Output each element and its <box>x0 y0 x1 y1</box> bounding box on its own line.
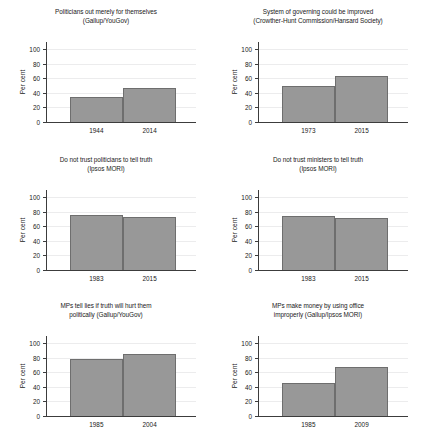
x-tick-label: 2009 <box>355 421 369 428</box>
y-tick-label: 60 <box>245 369 252 376</box>
y-tick-label: 60 <box>245 75 252 82</box>
y-tick-label: 100 <box>241 340 252 347</box>
bar <box>282 216 335 270</box>
y-tick-label: 60 <box>33 75 40 82</box>
y-tick-label: 40 <box>245 89 252 96</box>
y-axis-label: Per cent <box>231 364 238 389</box>
plot-area: Per cent02040608010019832015 <box>212 148 424 294</box>
y-tick-label: 20 <box>245 104 252 111</box>
y-tick-label: 100 <box>29 340 40 347</box>
y-tick-label: 20 <box>33 252 40 259</box>
plot-area: Per cent02040608010019852009 <box>212 294 424 444</box>
y-tick-label: 80 <box>245 208 252 215</box>
y-tick-label: 40 <box>33 89 40 96</box>
y-tick-label: 0 <box>248 119 252 126</box>
x-tick-label: 1985 <box>89 421 103 428</box>
multi-panel-bar-chart-figure: Politicians out merely for themselves (G… <box>0 0 424 444</box>
x-tick-label: 2015 <box>143 275 157 282</box>
y-tick-label: 0 <box>248 267 252 274</box>
y-tick-label: 60 <box>245 223 252 230</box>
y-tick-label: 0 <box>248 413 252 420</box>
gridline <box>258 358 408 359</box>
y-tick-label: 40 <box>33 237 40 244</box>
bar <box>335 76 388 122</box>
x-tick-label: 2015 <box>355 127 369 134</box>
x-tick-label: 1983 <box>89 275 103 282</box>
y-axis-line <box>258 42 259 123</box>
y-tick-label: 40 <box>245 237 252 244</box>
y-tick-label: 0 <box>36 413 40 420</box>
gridline <box>258 64 408 65</box>
y-axis-label: Per cent <box>19 70 26 95</box>
y-tick-label: 20 <box>245 252 252 259</box>
y-tick-label: 80 <box>245 354 252 361</box>
y-axis-line <box>46 42 47 123</box>
chart-panel: Do not trust politicians to tell truth (… <box>0 148 212 294</box>
gridline <box>46 78 196 79</box>
y-tick-label: 60 <box>33 369 40 376</box>
y-tick-label: 20 <box>33 104 40 111</box>
gridline <box>46 343 196 344</box>
y-tick-label: 60 <box>33 223 40 230</box>
y-axis-label: Per cent <box>231 218 238 243</box>
bar <box>123 88 176 122</box>
y-tick-label: 100 <box>29 46 40 53</box>
bar <box>282 383 335 416</box>
x-tick-label: 2015 <box>355 275 369 282</box>
y-tick-label: 40 <box>33 383 40 390</box>
y-tick-label: 80 <box>33 208 40 215</box>
y-tick-label: 0 <box>36 119 40 126</box>
chart-panel: Politicians out merely for themselves (G… <box>0 0 212 148</box>
y-axis-line <box>258 336 259 417</box>
bar <box>123 217 176 270</box>
x-axis-line <box>43 122 196 123</box>
y-axis-line <box>46 190 47 271</box>
chart-panel: Do not trust ministers to tell truth (Ip… <box>212 148 424 294</box>
gridline <box>258 343 408 344</box>
gridline <box>46 49 196 50</box>
gridline <box>258 212 408 213</box>
y-tick-label: 20 <box>245 398 252 405</box>
plot-area: Per cent02040608010019832015 <box>0 148 212 294</box>
bar <box>123 354 176 416</box>
y-tick-label: 80 <box>245 60 252 67</box>
x-tick-label: 1985 <box>301 421 315 428</box>
gridline <box>46 197 196 198</box>
y-tick-label: 80 <box>33 60 40 67</box>
chart-panel: System of governing could be improved (C… <box>212 0 424 148</box>
x-tick-label: 1973 <box>301 127 315 134</box>
x-tick-label: 1944 <box>89 127 103 134</box>
y-tick-label: 100 <box>241 194 252 201</box>
x-tick-label: 2014 <box>143 127 157 134</box>
bar <box>70 215 123 270</box>
y-tick-label: 100 <box>29 194 40 201</box>
y-tick-label: 80 <box>33 354 40 361</box>
chart-panel: MPs tell lies if truth will hurt them po… <box>0 294 212 444</box>
y-tick-label: 0 <box>36 267 40 274</box>
gridline <box>258 49 408 50</box>
chart-panel: MPs make money by using office improperl… <box>212 294 424 444</box>
plot-area: Per cent02040608010019442014 <box>0 0 212 148</box>
y-axis-label: Per cent <box>231 70 238 95</box>
gridline <box>258 197 408 198</box>
y-axis-line <box>258 190 259 271</box>
gridline <box>46 64 196 65</box>
y-axis-label: Per cent <box>19 218 26 243</box>
x-axis-line <box>255 270 408 271</box>
x-tick-label: 1983 <box>301 275 315 282</box>
plot-area: Per cent02040608010019732015 <box>212 0 424 148</box>
x-axis-line <box>255 416 408 417</box>
y-axis-label: Per cent <box>19 364 26 389</box>
bar <box>70 359 123 416</box>
plot-area: Per cent02040608010019852004 <box>0 294 212 444</box>
x-axis-line <box>43 270 196 271</box>
y-axis-line <box>46 336 47 417</box>
bar <box>282 86 335 122</box>
y-tick-label: 100 <box>241 46 252 53</box>
bar <box>335 218 388 270</box>
x-tick-label: 2004 <box>143 421 157 428</box>
bar <box>70 97 123 122</box>
x-axis-line <box>255 122 408 123</box>
y-tick-label: 20 <box>33 398 40 405</box>
y-tick-label: 40 <box>245 383 252 390</box>
